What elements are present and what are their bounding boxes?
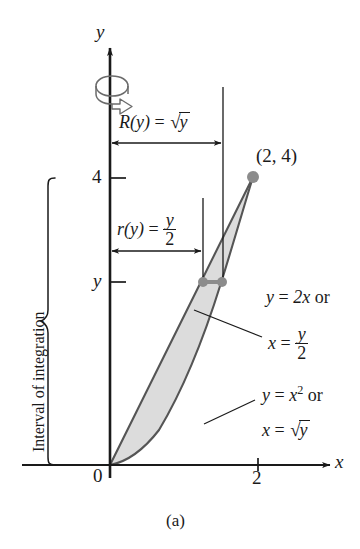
figure-canvas <box>0 0 360 549</box>
x-axis-label: x <box>335 452 343 471</box>
parabola-eq-exponent: 2 <box>297 383 303 397</box>
parabola-equation-solved-label: x = √y <box>262 420 310 440</box>
x-tick-label-2: 2 <box>252 468 262 487</box>
line-equation-label: y = 2x or <box>266 288 330 306</box>
line-eq2-equals: = <box>281 333 291 353</box>
parabola-eq2-lhs: x <box>262 420 270 440</box>
y-tick-label-y: y <box>93 271 101 290</box>
line-eq2-numerator: y <box>295 325 308 344</box>
inner-radius-lhs: r(y) <box>117 219 144 239</box>
y-tick-label-4: 4 <box>92 167 102 186</box>
leader-line-to-parabola-curve <box>204 400 255 424</box>
inner-radius-fraction: y 2 <box>163 211 176 249</box>
line-eq2-fraction: y 2 <box>295 325 308 363</box>
origin-label: 0 <box>93 466 103 485</box>
outer-radius-radical: √y <box>169 112 189 132</box>
line-eq-equals: = <box>279 287 289 307</box>
outer-radius-radicand: y <box>179 112 190 131</box>
parabola-eq2-equals: = <box>275 420 285 440</box>
volume-of-revolution-figure: y x 0 4 y 2 R(y) = √y r(y) = y 2 (2, 4) … <box>0 0 360 549</box>
outer-radius-label: R(y) = √y <box>119 112 190 132</box>
point-label-2-4: (2, 4) <box>256 146 297 165</box>
inner-radius-equals: = <box>148 219 158 239</box>
parabola-eq-base: x <box>289 385 297 405</box>
line-eq-or: or <box>315 287 330 307</box>
parabola-eq-lhs: y <box>262 385 270 405</box>
rotation-arrow-icon <box>96 76 132 114</box>
outer-radius-lhs: R(y) <box>119 112 150 132</box>
inner-radius-numerator: y <box>163 211 176 230</box>
inner-radius-dot <box>198 277 208 287</box>
parabola-eq2-radical: √y <box>289 420 309 440</box>
point-2-4-dot <box>247 171 259 183</box>
line-eq-lhs: y <box>266 287 274 307</box>
interval-of-integration-label: Interval of integration <box>30 312 48 452</box>
parabola-eq-or: or <box>308 385 323 405</box>
line-eq2-lhs: x <box>268 333 276 353</box>
line-eq2-denominator: 2 <box>295 344 308 363</box>
parabola-eq-equals: = <box>275 385 285 405</box>
y-axis-label: y <box>96 22 104 41</box>
parabola-equation-label: y = x2 or <box>262 384 323 404</box>
line-eq-rhs: 2x <box>293 287 310 307</box>
inner-radius-label: r(y) = y 2 <box>117 212 176 250</box>
parabola-eq2-radicand: y <box>299 420 310 439</box>
inner-radius-denominator: 2 <box>163 230 176 249</box>
figure-caption: (a) <box>166 512 185 529</box>
line-equation-solved-label: x = y 2 <box>268 326 308 364</box>
outer-radius-dot <box>217 277 227 287</box>
outer-radius-equals: = <box>154 112 164 132</box>
